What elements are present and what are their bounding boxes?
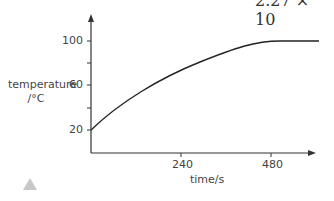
- y-axis-label: temperature /°C: [8, 78, 64, 106]
- y-axis-label-line2: /°C: [8, 92, 64, 106]
- y-axis-arrow-icon: [88, 14, 94, 22]
- y-tick-20: 20: [69, 123, 83, 136]
- y-tick-100: 100: [62, 34, 83, 47]
- x-tick-480: 480: [262, 158, 283, 171]
- x-axis-label: time/s: [190, 173, 224, 186]
- triangle-marker-icon: [23, 178, 37, 190]
- temperature-curve: [91, 41, 319, 130]
- x-tick-240: 240: [172, 158, 193, 171]
- y-axis-label-line1: temperature: [8, 78, 64, 92]
- x-axis-arrow-icon: [308, 150, 316, 156]
